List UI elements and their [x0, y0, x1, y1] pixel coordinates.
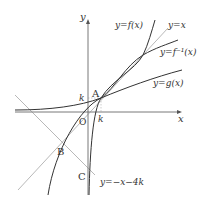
curve-f-label: y=f(x) [114, 20, 144, 30]
point-A-label: A [91, 88, 100, 99]
diagram-canvas: y x O k k A B C y=f(x) y=x y=f⁻¹(x) y=g(… [0, 0, 213, 200]
y-axis-arrow-icon [86, 19, 90, 24]
curve-f-inverse [48, 40, 178, 195]
identity-label: y=x [167, 20, 186, 30]
y-axis-label: y [79, 11, 86, 22]
f-inverse-label: y=f⁻¹(x) [159, 47, 197, 57]
point-B-label: B [57, 146, 64, 157]
k-y-label: k [79, 93, 84, 103]
line-label: y=−x−4k [99, 177, 144, 187]
x-axis-label: x [178, 113, 184, 124]
curve-f [89, 20, 155, 195]
point-C-label: C [78, 171, 86, 182]
curve-g-label: y=g(x) [152, 78, 184, 88]
k-x-label: k [98, 114, 103, 124]
diagram: y x O k k A B C y=f(x) y=x y=f⁻¹(x) y=g(… [0, 0, 213, 200]
line-y-neg-x-4k [15, 95, 95, 175]
origin-label: O [79, 117, 86, 127]
